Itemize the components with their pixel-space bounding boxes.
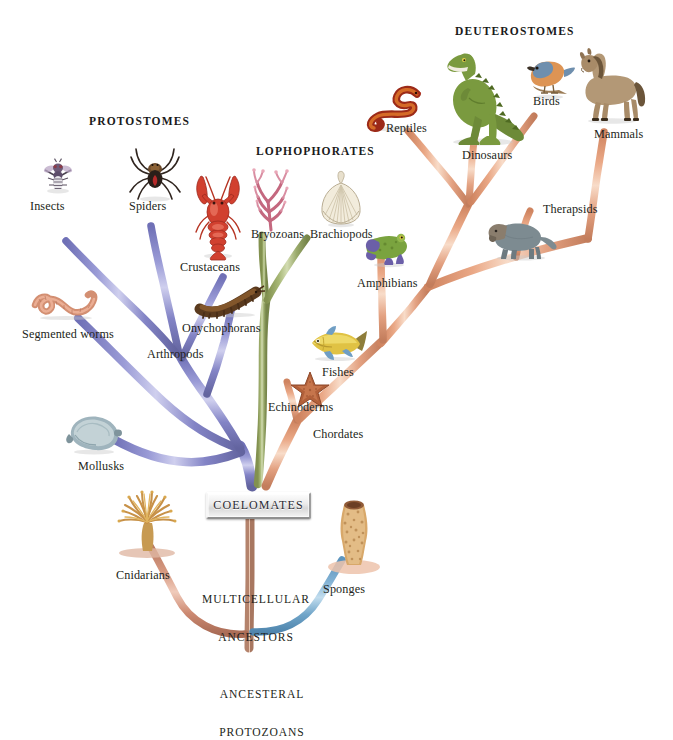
sea-anemone-icon (111, 487, 183, 559)
taxon-label-mollusks: Mollusks (78, 460, 124, 473)
taxon-label-spiders: Spiders (129, 200, 166, 213)
group-label-lophophorates: LOPHOPHORATES (256, 145, 375, 157)
ancesteral-protozoans-line2: PROTOZOANS (215, 727, 309, 740)
taxon-label-crustaceans: Crustaceans (180, 261, 240, 274)
brachiopod-icon (318, 170, 364, 228)
velvet-worm-icon (196, 283, 266, 319)
taxon-label-amphibians: Amphibians (357, 277, 418, 290)
spider-icon (128, 147, 182, 203)
taxon-label-dinosaurs: Dinosaurs (462, 149, 512, 162)
taxon-label-arthropods: Arthropods (147, 348, 204, 361)
bryozoan-icon (248, 168, 294, 230)
multicellular-ancestors-line2: ANCESTORS (200, 632, 312, 645)
ancesteral-protozoans-label: ANCESTERAL PROTOZOANS (215, 664, 309, 740)
sponge-icon (325, 497, 383, 575)
multicellular-ancestors-line1: MULTICELLULAR (200, 594, 312, 607)
taxon-label-fishes: Fishes (322, 366, 354, 379)
taxon-label-reptiles: Reptiles (386, 122, 427, 135)
taxon-label-insects: Insects (30, 200, 65, 213)
earthworm-icon (30, 288, 102, 322)
taxon-label-echinoderms: Echinoderms (268, 401, 333, 414)
crustacean-icon (189, 172, 247, 260)
taxon-label-cnidarians: Cnidarians (116, 569, 170, 582)
clam-icon (63, 411, 125, 455)
coelomates-text: COELOMATES (213, 498, 303, 513)
coelomates-node-label: COELOMATES (206, 492, 311, 519)
group-label-deuterostomes: DEUTEROSTOMES (455, 25, 575, 37)
insect-icon (41, 158, 75, 194)
ancesteral-protozoans-line1: ANCESTERAL (215, 689, 309, 702)
therapsid-icon (483, 211, 559, 261)
taxon-label-onychophorans: Onychophorans (182, 322, 260, 335)
taxon-label-bryozoans: Bryozoans (251, 228, 304, 241)
multicellular-ancestors-label: MULTICELLULAR ANCESTORS (200, 569, 312, 669)
taxon-label-sponges: Sponges (323, 583, 365, 596)
fish-icon (302, 325, 368, 363)
taxon-label-birds: Birds (533, 95, 560, 108)
taxon-label-mammals: Mammals (594, 128, 643, 141)
taxon-label-segmented-worms: Segmented worms (22, 328, 114, 341)
taxon-label-chordates: Chordates (313, 428, 363, 441)
group-label-protostomes: PROTOSTOMES (89, 115, 190, 127)
bird-icon (523, 48, 575, 100)
horse-icon (576, 46, 648, 124)
dinosaur-icon (437, 50, 529, 146)
taxon-label-brachiopods: Brachiopods (310, 228, 373, 241)
taxon-label-therapsids: Therapsids (543, 203, 597, 216)
